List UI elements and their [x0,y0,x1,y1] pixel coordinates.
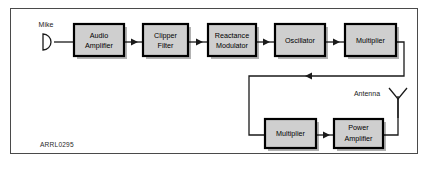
block-multiplier-top[interactable]: Multiplier [345,24,399,59]
block-multiplier-bottom-line1: Multiplier [276,129,305,138]
arrowhead-to-clipper-filter [131,39,138,46]
block-power-amplifier[interactable]: Power Amplifier [334,119,386,151]
block-reactance-modulator[interactable]: Reactance Modulator [208,24,259,59]
block-clipper-filter-line2: Filter [158,41,175,50]
block-reactance-modulator-line1: Reactance [215,31,249,40]
figure-credit: ARRL0295 [40,141,74,148]
arrowhead-feedback-left [305,73,312,80]
antenna-label: Antenna [354,90,380,97]
figure-canvas: Mike Antenna Audio Amplifier Clipper Fil… [0,0,434,170]
block-oscillator[interactable]: Oscillator [275,24,328,59]
block-multiplier-top-line1: Multiplier [356,36,385,45]
block-power-amplifier-line1: Power [348,123,369,132]
arrowhead-to-power-amplifier [323,132,330,139]
arrowhead-to-oscillator [263,39,270,46]
block-audio-amplifier-line2: Amplifier [85,41,114,50]
mike-label: Mike [39,21,54,28]
block-reactance-modulator-line2: Modulator [216,41,249,50]
arrowhead-to-reactance-modulator [196,39,203,46]
block-power-amplifier-line2: Amplifier [345,134,374,143]
arrowhead-to-multiplier-top [333,39,340,46]
block-oscillator-line1: Oscillator [285,36,316,45]
antenna-icon: Antenna [354,88,407,118]
block-multiplier-bottom[interactable]: Multiplier [265,119,319,151]
block-clipper-filter[interactable]: Clipper Filter [143,24,191,59]
block-audio-amplifier[interactable]: Audio Amplifier [74,24,127,59]
microphone-icon: Mike [39,21,54,50]
block-audio-amplifier-line1: Audio [90,31,108,40]
block-diagram: Mike Antenna Audio Amplifier Clipper Fil… [0,0,434,170]
block-clipper-filter-line1: Clipper [154,31,177,40]
